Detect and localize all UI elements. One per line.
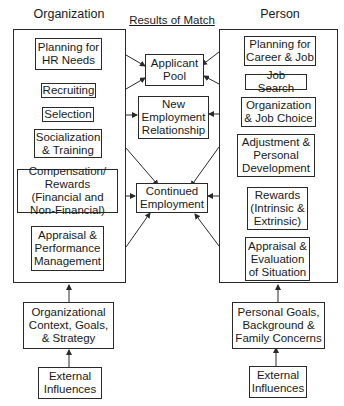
- box-label: External Influences: [40, 370, 100, 396]
- org-item-appraisal-performance: Appraisal & Performance Management: [31, 226, 104, 271]
- person-item-appraisal-evaluation: Appraisal & Evaluation of Situation: [245, 237, 310, 281]
- box-label: Selection: [44, 108, 91, 121]
- box-label: Organization & Job Choice: [243, 99, 314, 125]
- box-label: Appraisal & Evaluation of Situation: [247, 240, 308, 279]
- box-label: Adjustment & Personal Development: [239, 136, 313, 175]
- org-item-selection: Selection: [42, 107, 94, 122]
- box-label: Rewards (Intrinsic & Extrinsic): [249, 189, 306, 228]
- person-item-job-search: Job Search: [245, 74, 307, 90]
- person-item-rewards: Rewards (Intrinsic & Extrinsic): [247, 187, 308, 230]
- person-external-influences: External Influences: [249, 366, 307, 398]
- result-continued-employment: Continued Employment: [136, 183, 208, 213]
- personal-goals-background: Personal Goals, Background & Family Conc…: [232, 302, 325, 349]
- org-external-influences: External Influences: [38, 367, 102, 399]
- org-context-goals-strategy: Organizational Context, Goals, & Strateg…: [23, 302, 114, 349]
- box-label: Personal Goals, Background & Family Conc…: [234, 306, 323, 345]
- box-label: Socialization & Training: [36, 131, 101, 157]
- org-item-socialization-training: Socialization & Training: [34, 129, 102, 158]
- box-label: Compensation/ Rewards (Financial and Non…: [19, 165, 116, 217]
- org-item-planning-hr-needs: Planning for HR Needs: [35, 38, 102, 70]
- result-applicant-pool: Applicant Pool: [145, 54, 204, 86]
- box-label: Organizational Context, Goals, & Strateg…: [25, 306, 112, 345]
- box-label: Planning for Career & Job: [246, 38, 314, 64]
- box-label: External Influences: [251, 369, 305, 395]
- org-item-recruiting: Recruiting: [41, 83, 96, 98]
- box-label: Applicant Pool: [147, 57, 202, 83]
- result-new-employment-relationship: New Employment Relationship: [138, 96, 209, 139]
- box-label: Continued Employment: [138, 185, 206, 211]
- person-item-adjustment-development: Adjustment & Personal Development: [237, 134, 315, 177]
- box-label: New Employment Relationship: [140, 98, 207, 137]
- box-label: Recruiting: [43, 84, 95, 97]
- org-item-compensation-rewards: Compensation/ Rewards (Financial and Non…: [17, 169, 118, 213]
- person-item-org-job-choice: Organization & Job Choice: [241, 97, 316, 127]
- person-item-planning-career-job: Planning for Career & Job: [244, 36, 316, 66]
- box-label: Planning for HR Needs: [37, 41, 100, 67]
- box-label: Appraisal & Performance Management: [33, 229, 102, 268]
- box-label: Job Search: [247, 69, 305, 95]
